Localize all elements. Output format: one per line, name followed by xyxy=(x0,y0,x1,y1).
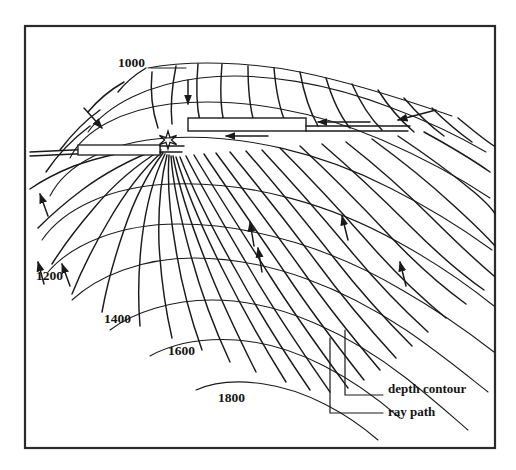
wave-crest-bar-main xyxy=(188,118,306,131)
depth-label-1000: 1000 xyxy=(118,55,145,71)
legend-label-depth-contour: depth contour xyxy=(388,381,466,397)
wave-refraction-diagram xyxy=(0,0,516,470)
legend-label-ray-path: ray path xyxy=(388,404,435,420)
wave-crest-bar-left xyxy=(78,145,160,155)
depth-label-1200: 1200 xyxy=(36,268,63,284)
depth-label-1800: 1800 xyxy=(218,390,245,406)
depth-label-1400: 1400 xyxy=(104,311,131,327)
depth-label-1600: 1600 xyxy=(168,343,195,359)
figure-canvas: 1000 1200 1400 1600 1800 depth contour r… xyxy=(0,0,516,470)
